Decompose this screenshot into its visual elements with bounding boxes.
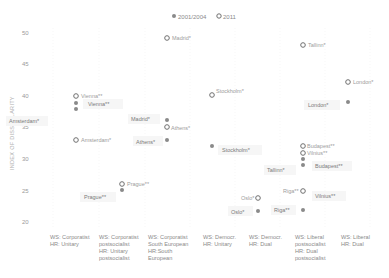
oslo-2011-label: Oslo* xyxy=(241,195,255,201)
budapest-2001-label: Budapest** xyxy=(315,163,343,169)
madrid-2001-label: Madrid* xyxy=(131,116,151,122)
x-category-corporatist-south-european: WS: Corporatist South European HR:South … xyxy=(148,234,194,262)
y-axis: 50 45 40 35 30 25 20 INDEX OF DISSIMILAR… xyxy=(9,30,29,225)
vilnius-2011-point[interactable] xyxy=(301,151,306,156)
category-line: HR: Dual xyxy=(341,241,387,248)
prague-2011-point[interactable] xyxy=(120,182,125,187)
legend-hollow-circle-icon xyxy=(217,14,221,18)
category-line: WS: Corporatist xyxy=(148,234,194,241)
stockholm-2011-label: Stockholm* xyxy=(216,88,245,94)
category-line: postsocialist xyxy=(295,241,341,248)
category-line: postsocialist xyxy=(295,255,341,262)
y-tick-20: 20 xyxy=(22,219,29,225)
athens-2001-point[interactable] xyxy=(165,138,169,142)
prague-2001-label: Prague** xyxy=(84,194,107,200)
vilnius-2011-label: Vilnius** xyxy=(307,150,328,156)
x-category-democr-dual: WS: Democr. HR: Dual xyxy=(249,234,295,248)
y-tick-45: 45 xyxy=(22,61,29,67)
category-line: European xyxy=(148,255,194,262)
vienna-2001-point[interactable] xyxy=(74,101,78,105)
y-tick-50: 50 xyxy=(22,30,29,36)
category-line: South European xyxy=(148,241,194,248)
legend: 2001/2004 2011 xyxy=(172,14,237,20)
column-liberal-dual: London* London* xyxy=(308,79,374,108)
budapest-2011-point[interactable] xyxy=(301,144,306,149)
madrid-2001-point[interactable] xyxy=(165,118,169,122)
riga-2011-label: Riga** xyxy=(283,188,299,194)
london-2011-label: London* xyxy=(353,79,374,85)
column-corporatist-south-european: Madrid* Madrid* Athens* Athens* xyxy=(131,35,192,145)
stockholm-2001-point[interactable] xyxy=(210,144,214,148)
madrid-2011-point[interactable] xyxy=(165,36,170,41)
prague-2001-point[interactable] xyxy=(120,188,124,192)
amsterdam-2011-point[interactable] xyxy=(74,138,79,143)
vienna-2011-label: Vienna** xyxy=(81,93,103,99)
stockholm-2001-label: Stockholm* xyxy=(222,147,251,153)
oslo-2001-label: Oslo* xyxy=(231,209,245,215)
x-category-liberal-dual: WS: Liberal HR: Dual xyxy=(341,234,387,248)
budapest-2011-label: Budapest** xyxy=(307,143,335,149)
category-line: WS: Corporatist xyxy=(50,234,96,241)
london-2001-point[interactable] xyxy=(346,100,350,104)
category-line: HR:South xyxy=(148,248,194,255)
column-corporatist-postsocialist: Prague** Prague** xyxy=(84,181,150,200)
prague-2011-label: Prague** xyxy=(127,181,150,187)
budapest-2001-point[interactable] xyxy=(301,163,305,167)
oslo-2001-point[interactable] xyxy=(256,209,260,213)
y-axis-title: INDEX OF DISSIMILARITY xyxy=(9,96,15,170)
label-backgrounds xyxy=(6,99,352,216)
tallinn-2011-label: Tallinn* xyxy=(308,42,327,48)
x-category-liberal-postsocialist: WS: Liberal postsocialist HR: Dual posts… xyxy=(295,234,341,262)
legend-label-2001: 2001/2004 xyxy=(178,14,207,20)
x-category-corporatist-postsocialist: WS: Corporatist postsocialist HR: Unitar… xyxy=(99,234,145,262)
category-line: HR: Unitary xyxy=(99,248,145,255)
x-category-democr-unitary: WS: Democr. HR: Unitary xyxy=(203,234,249,248)
category-line: postsocialist xyxy=(99,255,145,262)
category-line: WS: Democr. xyxy=(203,234,249,241)
legend-filled-circle-icon xyxy=(172,14,176,18)
tallinn-2011-point[interactable] xyxy=(301,43,306,48)
athens-2011-point[interactable] xyxy=(165,125,170,130)
tallinn-2001-label: Tallinn* xyxy=(267,167,286,173)
oslo-2011-point[interactable] xyxy=(256,196,261,201)
category-line: WS: Liberal xyxy=(341,234,387,241)
column-democr-unitary: Stockholm* Stockholm* xyxy=(210,88,251,153)
amsterdam-2011-label: Amsterdam* xyxy=(81,137,112,143)
category-line: WS: Liberal xyxy=(295,234,341,241)
x-category-corporatist-unitary: WS: Corporatist HR: Unitary xyxy=(50,234,96,248)
stockholm-2011-point[interactable] xyxy=(210,93,215,98)
vienna-2011-point[interactable] xyxy=(74,94,79,99)
category-line: HR: Unitary xyxy=(203,241,249,248)
y-tick-30: 30 xyxy=(22,156,29,162)
y-tick-40: 40 xyxy=(22,93,29,99)
legend-label-2011: 2011 xyxy=(223,14,237,20)
london-2001-label: London* xyxy=(308,102,329,108)
vienna-2001-label: Vienna** xyxy=(88,101,110,107)
tallinn-2001-point[interactable] xyxy=(301,157,305,161)
column-liberal-postsocialist: Tallinn* Budapest** Vilnius** Tallinn* B… xyxy=(267,42,343,213)
category-line: HR: Unitary xyxy=(50,241,96,248)
london-2011-point[interactable] xyxy=(346,80,351,85)
riga-2001-point[interactable] xyxy=(301,208,305,212)
riga-2001-label: Riga** xyxy=(274,207,290,213)
category-line: HR: Dual xyxy=(249,241,295,248)
vilnius-2001-label: Vilnius** xyxy=(315,193,336,199)
column-corporatist-unitary: Vienna** Vienna** Amsterdam* Amsterdam* xyxy=(9,93,112,143)
riga-2011-point[interactable] xyxy=(301,189,306,194)
category-line: postsocialist xyxy=(99,241,145,248)
category-line: HR: Dual xyxy=(295,248,341,255)
athens-2001-label: Athens* xyxy=(136,139,156,145)
amsterdam-2001-label: Amsterdam* xyxy=(9,118,40,124)
y-tick-25: 25 xyxy=(22,188,29,194)
athens-2011-label: Athens* xyxy=(171,125,191,131)
amsterdam-2001-point[interactable] xyxy=(74,107,78,111)
category-line: WS: Corporatist xyxy=(99,234,145,241)
madrid-2011-label: Madrid* xyxy=(172,35,192,41)
category-line: WS: Democr. xyxy=(249,234,295,241)
